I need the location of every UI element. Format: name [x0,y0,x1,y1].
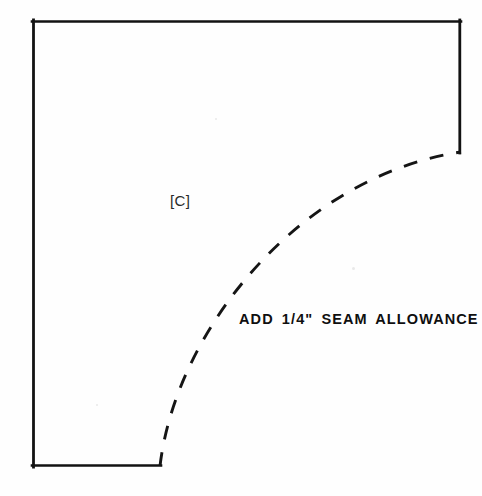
dashed-curve-cutting-line [160,152,461,466]
pattern-drawing [0,0,482,496]
seam-allowance-note: ADD 1/4" SEAM ALLOWANCE [239,311,479,327]
pattern-piece-label: [C] [170,192,190,209]
pattern-sheet: [C] ADD 1/4" SEAM ALLOWANCE [0,0,482,496]
